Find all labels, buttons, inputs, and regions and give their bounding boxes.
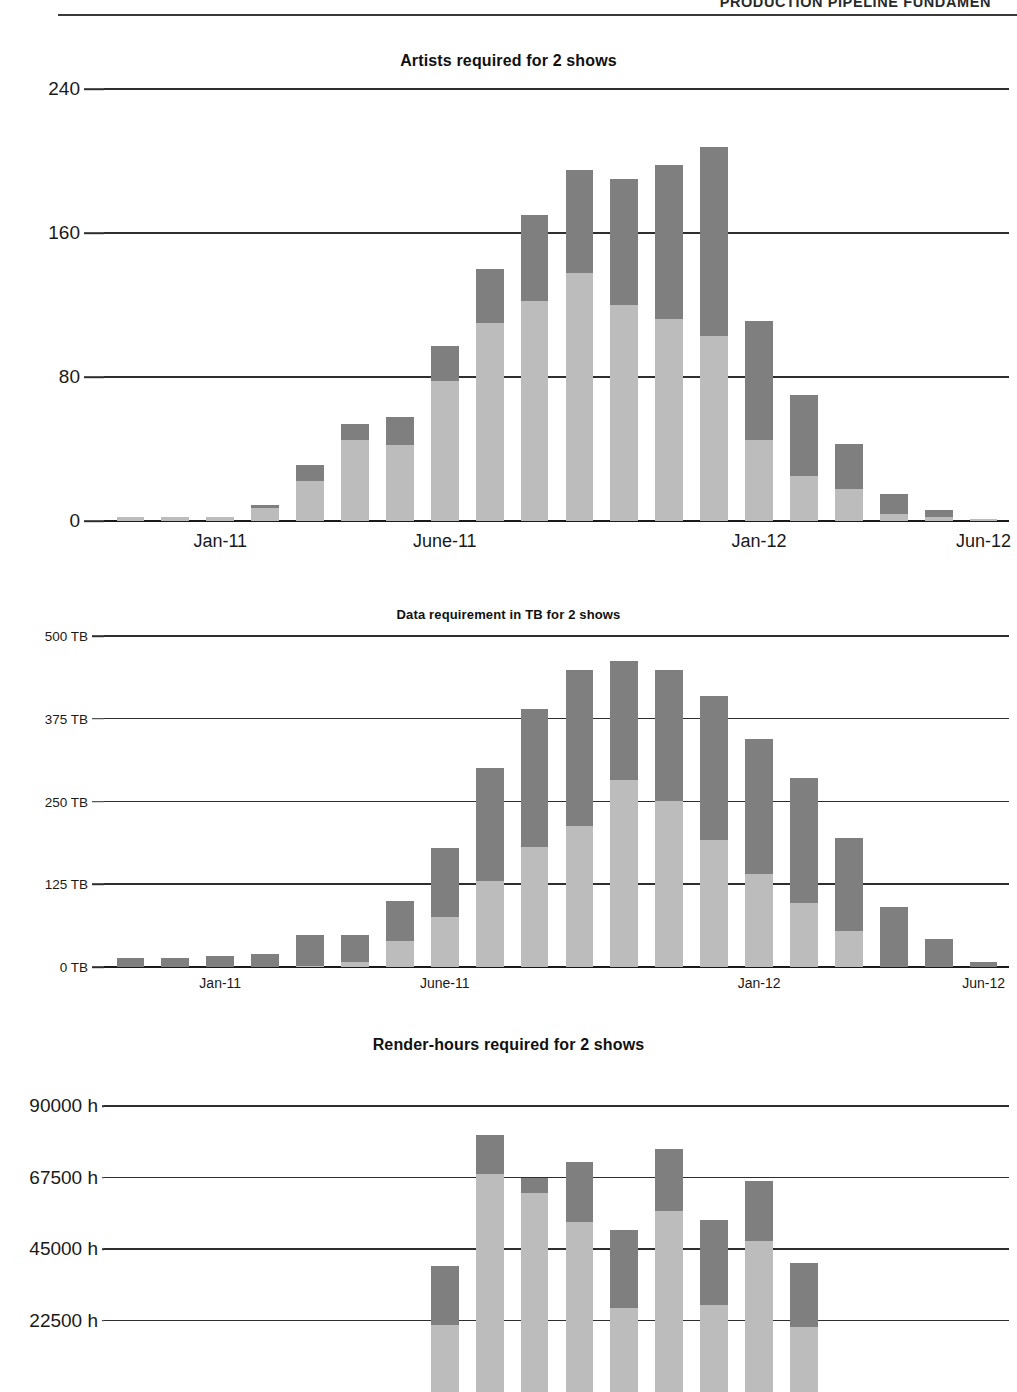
bar-stack [745,321,773,521]
bar-segment-show-2 [700,147,728,336]
bar-stack [431,848,459,967]
bar-segment-show-1 [655,319,683,521]
gridline [104,1248,1009,1250]
bar-segment-show-2 [206,956,234,967]
bar-stack [790,778,818,967]
bar-segment-show-1 [700,840,728,967]
bar-segment-show-2 [341,935,369,961]
bar-segment-show-1 [521,847,549,967]
y-axis-tick-label: 80 [59,366,80,388]
y-axis-tick-label: 45000 h [29,1238,98,1260]
y-axis-tick-mark [92,801,104,803]
bar-segment-show-1 [206,517,234,521]
bar-segment-show-1 [386,941,414,967]
bar-stack [251,505,279,521]
bar-segment-show-1 [431,1325,459,1392]
bar-segment-show-1 [521,301,549,521]
gridline [104,88,1009,90]
bar-stack [431,346,459,521]
bar-stack [386,417,414,521]
bar-stack [296,935,324,967]
y-axis-tick-mark [92,966,104,968]
bar-stack [655,165,683,521]
bar-segment-show-1 [431,917,459,967]
bar-stack [925,939,953,967]
bar-segment-show-2 [655,670,683,801]
bar-segment-show-1 [521,1193,549,1392]
bar-segment-show-2 [296,465,324,481]
bar-stack [566,170,594,521]
bar-segment-show-2 [431,1266,459,1325]
bar-stack [476,1135,504,1392]
bar-stack [521,709,549,967]
bar-segment-show-2 [745,1181,773,1241]
y-axis-tick-label: 67500 h [29,1167,98,1189]
y-axis-tick-mark [92,883,104,885]
bar-stack [341,935,369,967]
chart-1-plot-area: 080160240Jan-11June-11Jan-12Jun-12 [0,80,1017,572]
bar-segment-show-1 [476,881,504,967]
bar-segment-show-1 [566,1222,594,1392]
bar-segment-show-2 [610,1230,638,1308]
chart-2-plot-area: 0 TB125 TB250 TB375 TB500 TBJan-11June-1… [0,627,1017,1027]
y-axis-tick-mark [84,376,104,378]
bar-segment-show-2 [476,768,504,881]
gridline [104,1177,1009,1179]
bar-segment-show-2 [431,346,459,380]
bar-segment-show-1 [117,517,145,521]
bar-stack [745,739,773,967]
y-axis-tick-mark [102,1177,104,1179]
bar-stack [521,215,549,521]
bar-segment-show-1 [566,826,594,967]
bar-segment-show-2 [925,510,953,517]
bar-stack [521,1178,549,1392]
y-axis-tick-mark [92,718,104,720]
bar-stack [341,424,369,521]
y-axis-tick-mark [102,1105,104,1107]
bar-stack [386,901,414,967]
bar-stack [880,494,908,521]
bar-segment-show-2 [610,661,638,780]
bar-segment-show-2 [835,838,863,931]
bar-segment-show-1 [610,305,638,521]
bar-segment-show-2 [566,670,594,826]
bar-segment-show-2 [925,939,953,967]
y-axis-tick-mark [102,1320,104,1322]
bar-segment-show-2 [880,494,908,514]
x-axis-tick-label: Jun-12 [956,531,1011,552]
bar-segment-show-1 [970,519,998,521]
y-axis-tick-label: 0 [69,510,80,532]
y-axis-tick-mark [84,520,104,522]
bar-stack [117,517,145,521]
bar-stack [610,1230,638,1392]
y-axis-tick-mark [102,1248,104,1250]
bar-stack [970,962,998,967]
bar-stack [161,517,189,521]
y-axis-tick-label: 0 TB [60,960,88,975]
bar-segment-show-1 [431,381,459,521]
bar-segment-show-1 [835,931,863,967]
bar-segment-show-2 [521,215,549,301]
bar-segment-show-2 [161,958,189,967]
bar-segment-show-1 [161,517,189,521]
chart-3-title: Render-hours required for 2 shows [0,1036,1017,1054]
bar-segment-show-1 [296,966,324,967]
bar-stack [790,395,818,521]
bar-segment-show-1 [655,801,683,967]
gridline [104,801,1009,803]
bar-stack [925,510,953,521]
bar-stack [476,768,504,967]
bar-stack [161,958,189,967]
bar-stack [206,517,234,521]
chart-2-title: Data requirement in TB for 2 shows [0,607,1017,622]
bar-stack [610,661,638,967]
bar-segment-show-2 [296,935,324,965]
bar-segment-show-2 [790,778,818,904]
bar-segment-show-1 [341,440,369,521]
bar-segment-show-2 [700,696,728,840]
bar-stack [251,954,279,967]
bar-segment-show-2 [610,179,638,305]
y-axis-tick-label: 125 TB [45,877,88,892]
bar-segment-show-2 [251,954,279,967]
y-axis-tick-mark [84,88,104,90]
